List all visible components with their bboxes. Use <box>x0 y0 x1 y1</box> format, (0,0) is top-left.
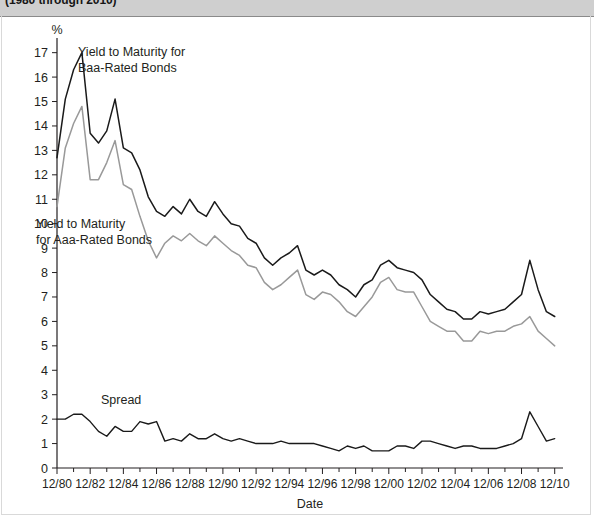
y-tick-label: 12 <box>34 168 48 182</box>
annotation-aaa-line2: for Aaa-Rated Bonds <box>36 233 152 247</box>
x-tick-label: 12/90 <box>208 477 238 491</box>
x-tick-label: 12/82 <box>75 477 105 491</box>
y-tick-label: 1 <box>41 437 48 451</box>
x-tick-label: 12/80 <box>42 477 72 491</box>
x-tick-label: 12/94 <box>274 477 304 491</box>
x-tick-label: 12/00 <box>374 477 404 491</box>
x-tick-label: 12/88 <box>175 477 205 491</box>
y-tick-label: 2 <box>41 413 48 427</box>
series-line-baa <box>57 53 555 319</box>
x-tick-group <box>57 468 555 474</box>
y-tick-label-group: 01234567891011121314151617 <box>34 46 48 475</box>
x-tick-label: 12/10 <box>540 477 570 491</box>
x-tick-label: 12/98 <box>341 477 371 491</box>
y-tick-label: 6 <box>41 315 48 329</box>
annotation-baa-line1: Yield to Maturity for <box>78 45 185 59</box>
x-tick-label: 12/86 <box>142 477 172 491</box>
caption-band: (1980 through 2010) <box>0 0 594 17</box>
x-tick-label: 12/08 <box>507 477 537 491</box>
y-tick-label: 5 <box>41 339 48 353</box>
y-tick-label: 16 <box>34 71 48 85</box>
y-tick-label: 3 <box>41 388 48 402</box>
y-tick-label: 7 <box>41 290 48 304</box>
annotation-spread: Spread <box>101 393 141 407</box>
y-tick-label: 15 <box>34 95 48 109</box>
y-tick-group <box>52 53 57 468</box>
x-tick-label: 12/04 <box>440 477 470 491</box>
chart-plot-area: 01234567891011121314151617 12/8012/8212/… <box>0 16 594 518</box>
x-tick-label: 12/96 <box>307 477 337 491</box>
annotation-aaa-line1: Yield to Maturity <box>36 217 126 231</box>
y-tick-label: 17 <box>34 46 48 60</box>
x-tick-label: 12/92 <box>241 477 271 491</box>
y-tick-label: 0 <box>41 462 48 476</box>
x-tick-label: 12/02 <box>407 477 437 491</box>
x-tick-label: 12/06 <box>473 477 503 491</box>
y-tick-label: 8 <box>41 266 48 280</box>
x-tick-label-group: 12/8012/8212/8412/8612/8812/9012/9212/94… <box>42 477 570 491</box>
y-tick-label: 11 <box>35 193 48 207</box>
series-line-spread <box>57 412 555 451</box>
y-tick-label: 13 <box>34 144 48 158</box>
y-tick-label: 4 <box>41 364 48 378</box>
series-line-aaa <box>57 106 555 345</box>
annotation-baa-line2: Baa-Rated Bonds <box>78 61 177 75</box>
y-tick-label: 14 <box>34 119 48 133</box>
data-series-group <box>57 53 555 451</box>
figure-container: (1980 through 2010) 01234567891011121314… <box>0 0 594 518</box>
bond-yield-line-chart: 01234567891011121314151617 12/8012/8212/… <box>0 16 594 518</box>
x-tick-label: 12/84 <box>108 477 138 491</box>
annotation-group: Yield to Maturity for Baa-Rated Bonds Yi… <box>36 45 185 407</box>
x-axis-title: Date <box>297 497 323 511</box>
figure-caption: (1980 through 2010) <box>5 0 116 7</box>
y-axis-unit-label: % <box>51 23 62 37</box>
